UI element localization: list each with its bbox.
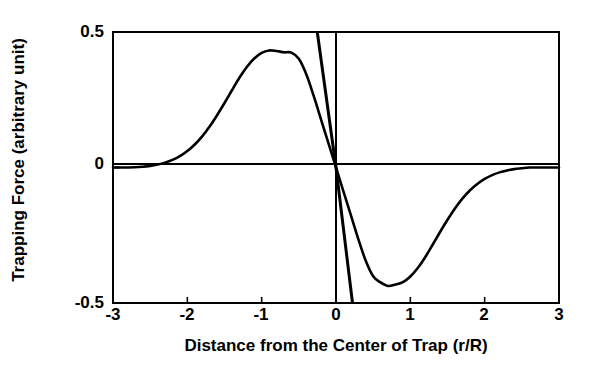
plot-area	[0, 0, 593, 382]
trapping-force-chart: Trapping Force (arbitrary unit) 0.5 0 -0…	[0, 0, 593, 382]
x-axis-title: Distance from the Center of Trap (r/R)	[184, 336, 487, 355]
x-axis-title-container: Distance from the Center of Trap (r/R)	[113, 336, 559, 356]
